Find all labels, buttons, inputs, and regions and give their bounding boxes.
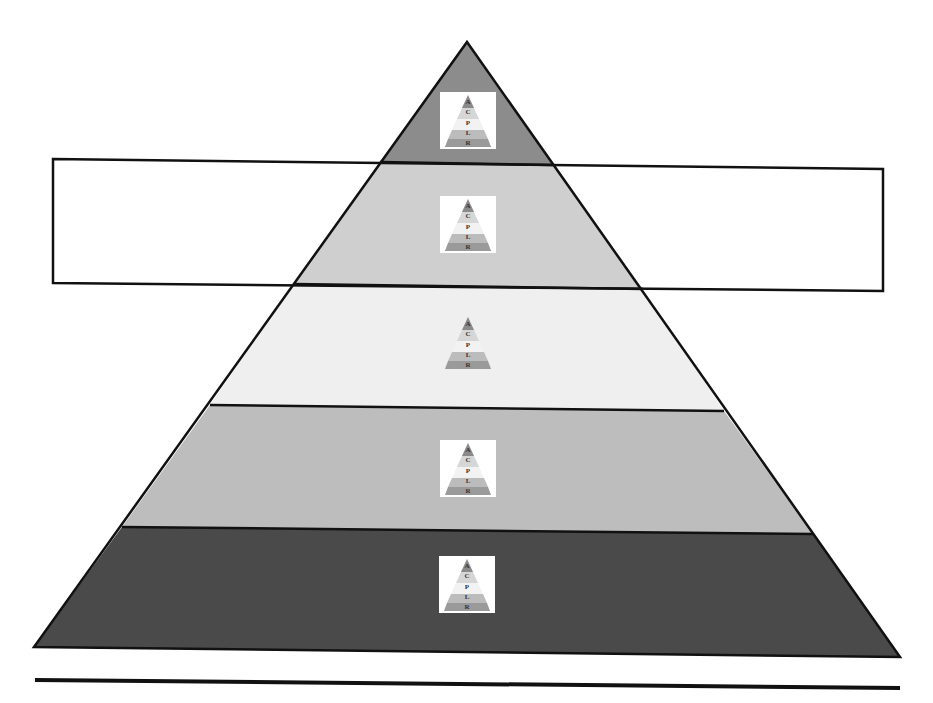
svg-text:P: P <box>466 467 471 475</box>
svg-text:L: L <box>466 351 471 359</box>
svg-text:C: C <box>465 108 470 116</box>
svg-text:C: C <box>465 212 470 220</box>
mini-pyramid-icon: A C P L R <box>440 440 496 497</box>
svg-text:A: A <box>465 98 470 106</box>
svg-text:P: P <box>465 583 470 591</box>
svg-text:A: A <box>464 562 469 570</box>
mini-pyramid-icon: A C P L R <box>439 556 495 613</box>
svg-text:P: P <box>466 119 471 127</box>
svg-text:A: A <box>465 202 470 210</box>
svg-text:L: L <box>466 477 471 485</box>
svg-text:C: C <box>465 456 470 464</box>
pyramid-diagram: A C P L R A C P L R A C P L R A C P L R … <box>0 0 933 703</box>
svg-text:L: L <box>466 129 471 137</box>
svg-text:A: A <box>465 320 470 328</box>
horizontal-rule <box>35 680 900 688</box>
svg-text:C: C <box>465 330 470 338</box>
svg-text:P: P <box>466 223 471 231</box>
mini-pyramid-icon: A C P L R <box>440 92 496 149</box>
svg-text:A: A <box>465 446 470 454</box>
svg-text:L: L <box>466 233 471 241</box>
svg-text:P: P <box>466 341 471 349</box>
mini-pyramid-icon: A C P L R <box>440 314 496 371</box>
svg-text:L: L <box>465 593 470 601</box>
mini-pyramid-icon: A C P L R <box>440 196 496 253</box>
svg-text:C: C <box>464 572 469 580</box>
